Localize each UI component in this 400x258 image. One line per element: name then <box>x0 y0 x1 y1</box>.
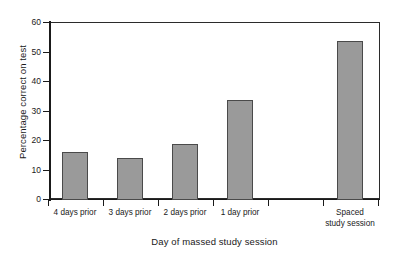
y-tick-label-60: 60 <box>5 17 41 27</box>
y-tick-label-30: 30 <box>5 106 41 116</box>
bar-3-days-prior <box>117 158 143 200</box>
y-axis-tick-label-group: 60 50 40 30 20 10 0 <box>0 0 41 258</box>
bar-1-day-prior <box>227 100 253 200</box>
x-tick-mark-0 <box>48 199 49 206</box>
y-axis-line <box>49 21 51 201</box>
y-tick-label-0: 0 <box>5 194 41 204</box>
x-axis-title: Day of massed study session <box>49 236 380 247</box>
y-tick-label-40: 40 <box>5 76 41 86</box>
x-tick-mark-6 <box>378 199 379 206</box>
bar-chart-figure: Percentage correct on test 60 50 40 30 2… <box>0 0 400 258</box>
bar-4-days-prior <box>62 152 88 200</box>
x-tick-label-spaced-study-session: Spaced study session <box>305 208 395 229</box>
bar-spaced-study-session <box>337 41 363 200</box>
x-tick-mark-2 <box>158 199 159 206</box>
x-tick-mark-5 <box>323 199 324 206</box>
y-tick-label-10: 10 <box>5 165 41 175</box>
x-tick-mark-4 <box>268 199 269 206</box>
y-tick-label-20: 20 <box>5 135 41 145</box>
y-tick-label-50: 50 <box>5 47 41 57</box>
plot-area <box>49 22 380 199</box>
bar-2-days-prior <box>172 144 198 200</box>
x-tick-label-1-day-prior: 1 day prior <box>195 208 285 219</box>
x-tick-mark-1 <box>103 199 104 206</box>
x-tick-mark-3 <box>213 199 214 206</box>
